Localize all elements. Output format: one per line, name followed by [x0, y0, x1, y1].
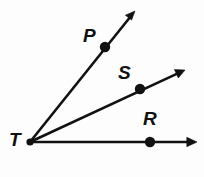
ray-TR-arrowhead [187, 137, 197, 146]
diagram-canvas [0, 0, 204, 177]
ray-TP-arrowhead [125, 11, 135, 20]
ray-TS [30, 70, 185, 142]
ray-TR [30, 137, 197, 146]
point-dot-P [100, 42, 110, 52]
ray-TP-line [30, 16, 131, 142]
label-R: R [143, 109, 157, 128]
label-T: T [9, 130, 21, 149]
point-dot-S [135, 84, 145, 94]
point-dot-R [145, 137, 155, 147]
label-S: S [118, 63, 131, 82]
angle-diagram: T P S R [0, 0, 204, 177]
ray-TS-line [30, 72, 181, 142]
vertex-dot-T [26, 138, 33, 145]
label-P: P [83, 26, 96, 45]
